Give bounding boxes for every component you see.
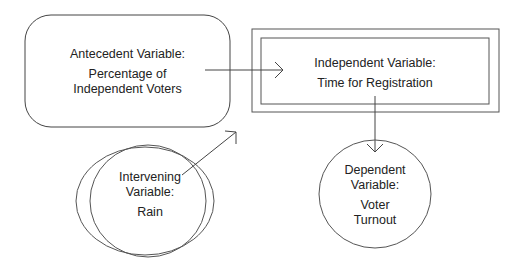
dependent-heading-2: Variable: (325, 178, 425, 193)
edge-intervening-to-link (182, 132, 236, 175)
independent-heading: Independent Variable: (261, 56, 489, 71)
independent-line-1: Time for Registration (261, 76, 489, 91)
antecedent-heading: Antecedent Variable: (25, 47, 230, 62)
dependent-node-label: Dependent Variable: Voter Turnout (325, 163, 425, 228)
intervening-line-1: Rain (100, 205, 200, 220)
diagram-canvas (0, 0, 522, 265)
independent-node-label: Independent Variable: Time for Registrat… (261, 56, 489, 91)
intervening-heading-1: Intervening (100, 170, 200, 185)
intervening-heading-2: Variable: (100, 185, 200, 200)
dependent-line-2: Turnout (325, 213, 425, 228)
intervening-node-label: Intervening Variable: Rain (100, 170, 200, 220)
antecedent-node-label: Antecedent Variable: Percentage of Indep… (25, 47, 230, 97)
antecedent-line-2: Independent Voters (25, 82, 230, 97)
antecedent-line-1: Percentage of (25, 67, 230, 82)
dependent-heading-1: Dependent (325, 163, 425, 178)
dependent-line-1: Voter (325, 198, 425, 213)
